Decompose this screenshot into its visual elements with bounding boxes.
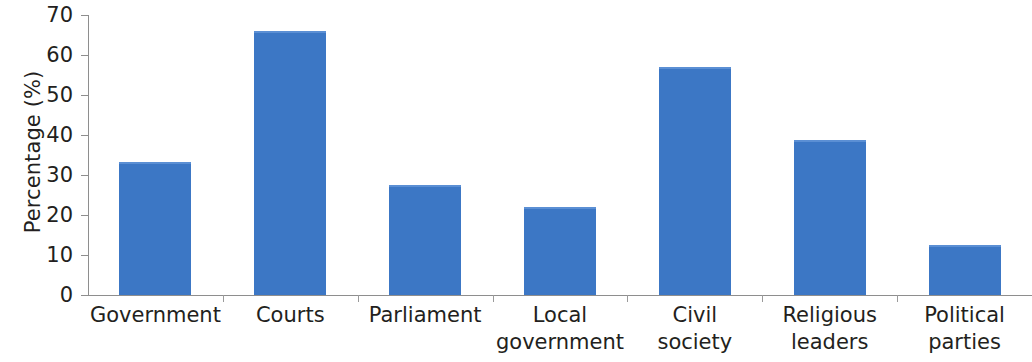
x-axis-category-label: Localgovernment — [493, 302, 628, 356]
x-axis-tick — [358, 295, 359, 302]
plot-area: 010203040506070 — [88, 15, 1032, 295]
y-axis-tick — [81, 255, 88, 256]
y-axis-tick-label: 0 — [60, 283, 73, 307]
x-axis-category-label: Religiousleaders — [762, 302, 897, 356]
y-axis-tick — [81, 95, 88, 96]
y-axis-tick — [81, 135, 88, 136]
y-axis-line — [88, 15, 89, 296]
bar — [119, 162, 191, 295]
x-axis-tick — [897, 295, 898, 302]
y-axis-tick-label: 60 — [46, 43, 73, 67]
y-axis-tick-label: 50 — [46, 83, 73, 107]
bar — [254, 31, 326, 295]
bar — [659, 67, 731, 295]
x-axis-category-label: Courts — [223, 302, 358, 329]
x-axis-tick — [762, 295, 763, 302]
y-axis-tick — [81, 55, 88, 56]
y-axis-title: Percentage (%) — [21, 42, 45, 262]
x-axis-tick — [627, 295, 628, 302]
y-axis-tick — [81, 215, 88, 216]
x-axis-tick — [223, 295, 224, 302]
x-axis-category-label: Politicalparties — [897, 302, 1032, 356]
x-axis-tick — [493, 295, 494, 302]
y-axis-tick-label: 20 — [46, 203, 73, 227]
x-axis-category-labels: GovernmentCourtsParliamentLocalgovernmen… — [88, 302, 1032, 362]
x-axis-line — [88, 295, 1032, 296]
y-axis-tick-label: 70 — [46, 3, 73, 27]
y-axis-tick — [81, 175, 88, 176]
x-axis-category-label: Parliament — [358, 302, 493, 329]
bar — [524, 207, 596, 295]
y-axis-tick-label: 30 — [46, 163, 73, 187]
bar-chart: Percentage (%) 010203040506070 Governmen… — [0, 0, 1032, 362]
x-axis-category-label: Government — [88, 302, 223, 329]
y-axis-tick — [81, 295, 88, 296]
y-axis-tick-label: 40 — [46, 123, 73, 147]
y-axis-tick — [81, 15, 88, 16]
y-axis-tick-label: 10 — [46, 243, 73, 267]
bar — [929, 245, 1001, 295]
bar — [794, 140, 866, 295]
x-axis-category-label: Civilsociety — [627, 302, 762, 356]
bar — [389, 185, 461, 295]
